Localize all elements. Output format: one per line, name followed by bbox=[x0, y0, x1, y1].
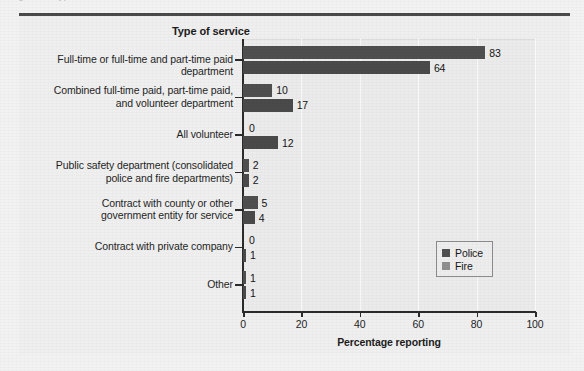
bar-fire-6 bbox=[243, 286, 246, 299]
y-tick-3 bbox=[235, 172, 242, 174]
x-tick-60 bbox=[418, 312, 420, 317]
plot-top-edge bbox=[243, 39, 535, 40]
bar-value-police-1: 10 bbox=[276, 84, 287, 97]
y-tick-0 bbox=[235, 59, 242, 61]
x-tick-label-60: 60 bbox=[412, 318, 423, 330]
bar-value-police-5: 0 bbox=[249, 234, 255, 247]
legend-entry-fire: Fire bbox=[442, 259, 483, 272]
bar-fire-2 bbox=[243, 136, 278, 149]
bar-fire-4 bbox=[243, 211, 255, 224]
bar-value-fire-5: 1 bbox=[250, 249, 256, 262]
bar-fire-0 bbox=[243, 61, 430, 74]
category-label: Contract with county or other government… bbox=[101, 197, 233, 222]
bar-value-police-4: 5 bbox=[262, 197, 268, 210]
category-label: Public safety department (consolidated p… bbox=[56, 159, 233, 184]
cutoff-caption-text: Figure ... Type ... bbox=[10, 0, 87, 1]
bar-police-0 bbox=[243, 46, 485, 59]
y-tick-5 bbox=[235, 247, 242, 249]
legend-swatch-fire-icon bbox=[442, 262, 450, 270]
bar-value-police-6: 1 bbox=[250, 272, 256, 285]
bar-value-fire-1: 17 bbox=[297, 99, 308, 112]
category-label: Full-time or full-time and part-time pai… bbox=[10, 53, 233, 78]
bar-fire-1 bbox=[243, 99, 293, 112]
x-tick-label-80: 80 bbox=[471, 318, 482, 330]
category-label: Other bbox=[207, 278, 233, 291]
gridline-20 bbox=[301, 39, 302, 311]
x-axis-line bbox=[242, 311, 536, 313]
x-tick-80 bbox=[477, 312, 479, 317]
cutoff-caption-row: Figure ... Type ... bbox=[0, 0, 584, 13]
category-label: Contract with private company bbox=[95, 240, 233, 253]
bar-value-fire-0: 64 bbox=[434, 62, 445, 75]
chart-title: Type of service bbox=[172, 25, 250, 37]
x-tick-40 bbox=[360, 312, 362, 317]
x-tick-20 bbox=[301, 312, 303, 317]
y-tick-4 bbox=[235, 209, 242, 211]
bar-value-police-0: 83 bbox=[489, 47, 500, 60]
category-label: All volunteer bbox=[177, 128, 233, 141]
bar-value-police-3: 2 bbox=[253, 159, 259, 172]
bar-police-3 bbox=[243, 159, 249, 172]
bar-fire-3 bbox=[243, 174, 249, 187]
gridline-40 bbox=[360, 39, 361, 311]
x-tick-label-0: 0 bbox=[240, 318, 246, 330]
x-axis-title: Percentage reporting bbox=[243, 336, 535, 348]
y-tick-1 bbox=[235, 97, 242, 99]
category-label: Combined full-time paid, part-time paid,… bbox=[54, 84, 233, 109]
bar-police-4 bbox=[243, 196, 258, 209]
bar-value-fire-4: 4 bbox=[259, 212, 265, 225]
bar-value-police-2: 0 bbox=[249, 122, 255, 135]
x-tick-100 bbox=[535, 312, 537, 317]
legend-entry-police: Police bbox=[442, 246, 483, 259]
bar-police-6 bbox=[243, 271, 246, 284]
x-tick-0 bbox=[243, 312, 245, 317]
x-tick-label-20: 20 bbox=[296, 318, 307, 330]
y-tick-2 bbox=[235, 134, 242, 136]
figure-container: Figure ... Type ... Type of service 0204… bbox=[0, 0, 584, 371]
chart-legend: Police Fire bbox=[436, 241, 493, 277]
legend-label-police: Police bbox=[455, 247, 483, 259]
y-tick-6 bbox=[235, 284, 242, 286]
bar-value-fire-6: 1 bbox=[250, 287, 256, 300]
bar-value-fire-2: 12 bbox=[282, 137, 293, 150]
bar-value-fire-3: 2 bbox=[253, 174, 259, 187]
gridline-100 bbox=[535, 39, 536, 311]
bar-police-1 bbox=[243, 84, 272, 97]
gridline-60 bbox=[418, 39, 419, 311]
x-tick-label-100: 100 bbox=[526, 318, 543, 330]
legend-swatch-police-icon bbox=[442, 249, 450, 257]
x-tick-label-40: 40 bbox=[354, 318, 365, 330]
bar-fire-5 bbox=[243, 249, 246, 262]
legend-label-fire: Fire bbox=[455, 260, 473, 272]
